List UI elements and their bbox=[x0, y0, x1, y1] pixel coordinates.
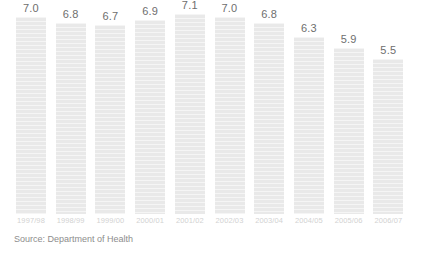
bar-group: 6.3 bbox=[294, 0, 324, 214]
category-label: 1999/00 bbox=[88, 216, 132, 225]
category-label: 1998/99 bbox=[49, 216, 93, 225]
bar-value-label: 7.0 bbox=[10, 2, 52, 14]
category-label: 2003/04 bbox=[247, 216, 291, 225]
bar[interactable] bbox=[215, 17, 245, 214]
category-label: 2001/02 bbox=[168, 216, 212, 225]
plot-area: 7.06.86.76.97.17.06.86.35.95.5 bbox=[0, 0, 422, 214]
category-label: 2000/01 bbox=[128, 216, 172, 225]
bar-chart: 7.06.86.76.97.17.06.86.35.95.5 1997/9819… bbox=[0, 0, 422, 254]
bar[interactable] bbox=[254, 23, 284, 214]
category-label: 2006/07 bbox=[366, 216, 410, 225]
bar-group: 6.8 bbox=[56, 0, 86, 214]
category-label: 2005/06 bbox=[327, 216, 371, 225]
bar[interactable] bbox=[373, 59, 403, 214]
bar-value-label: 7.1 bbox=[169, 0, 211, 11]
bar-value-label: 6.8 bbox=[248, 8, 290, 20]
bar-group: 7.1 bbox=[175, 0, 205, 214]
bar-value-label: 6.7 bbox=[89, 10, 131, 22]
bar-group: 6.9 bbox=[135, 0, 165, 214]
bar[interactable] bbox=[56, 23, 86, 214]
bar[interactable] bbox=[16, 17, 46, 214]
bar-value-label: 5.9 bbox=[328, 33, 370, 45]
bar-group: 7.0 bbox=[16, 0, 46, 214]
source-note: Source: Department of Health bbox=[14, 234, 133, 244]
bar-value-label: 7.0 bbox=[209, 2, 251, 14]
bar[interactable] bbox=[294, 37, 324, 214]
bar[interactable] bbox=[135, 20, 165, 214]
category-axis: 1997/981998/991999/002000/012001/022002/… bbox=[0, 214, 422, 230]
bar[interactable] bbox=[95, 25, 125, 214]
bar-value-label: 6.9 bbox=[129, 5, 171, 17]
bar-group: 5.9 bbox=[334, 0, 364, 214]
bar-group: 7.0 bbox=[215, 0, 245, 214]
bar[interactable] bbox=[334, 48, 364, 214]
bar-value-label: 6.3 bbox=[288, 22, 330, 34]
bar-value-label: 6.8 bbox=[50, 8, 92, 20]
bar[interactable] bbox=[175, 14, 205, 214]
bar-group: 5.5 bbox=[373, 0, 403, 214]
bar-value-label: 5.5 bbox=[367, 44, 409, 56]
category-label: 1997/98 bbox=[9, 216, 53, 225]
bar-group: 6.7 bbox=[95, 0, 125, 214]
category-label: 2002/03 bbox=[208, 216, 252, 225]
bar-group: 6.8 bbox=[254, 0, 284, 214]
category-label: 2004/05 bbox=[287, 216, 331, 225]
